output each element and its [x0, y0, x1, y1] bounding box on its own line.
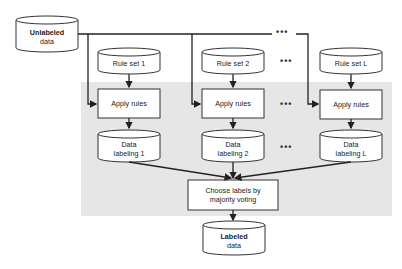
ellipsis-data-labeling: •••	[280, 142, 292, 152]
rule-set-1-label: Rule set 1	[98, 55, 160, 71]
data-labeling-1-label: Datalabeling 1	[98, 138, 160, 160]
apply-rules-2-label: Apply rules	[202, 89, 264, 118]
apply-rules-l-label: Apply rules	[320, 90, 382, 119]
labeled-data-label: Labeleddata	[203, 229, 265, 253]
rule-set-l-label: Rule set L	[320, 55, 382, 71]
feed-to-apply-l	[296, 34, 318, 104]
feed-to-apply-2	[192, 34, 200, 104]
unlabeled-data-label: Unlabeleddata	[16, 24, 78, 50]
ellipsis-rule-sets: •••	[280, 56, 292, 66]
ellipsis-feed: •••	[276, 27, 288, 37]
apply-rules-1-label: Apply rules	[98, 89, 160, 118]
feed-to-apply-1	[88, 34, 96, 104]
rule-set-2-label: Rule set 2	[202, 55, 264, 71]
majority-voting-label: Choose labels bymajority voting	[188, 180, 278, 210]
data-labeling-2-label: Datalabeling 2	[202, 138, 264, 160]
ellipsis-apply-rules: •••	[280, 99, 292, 109]
data-labeling-l-label: Datalabeling L	[320, 138, 382, 160]
